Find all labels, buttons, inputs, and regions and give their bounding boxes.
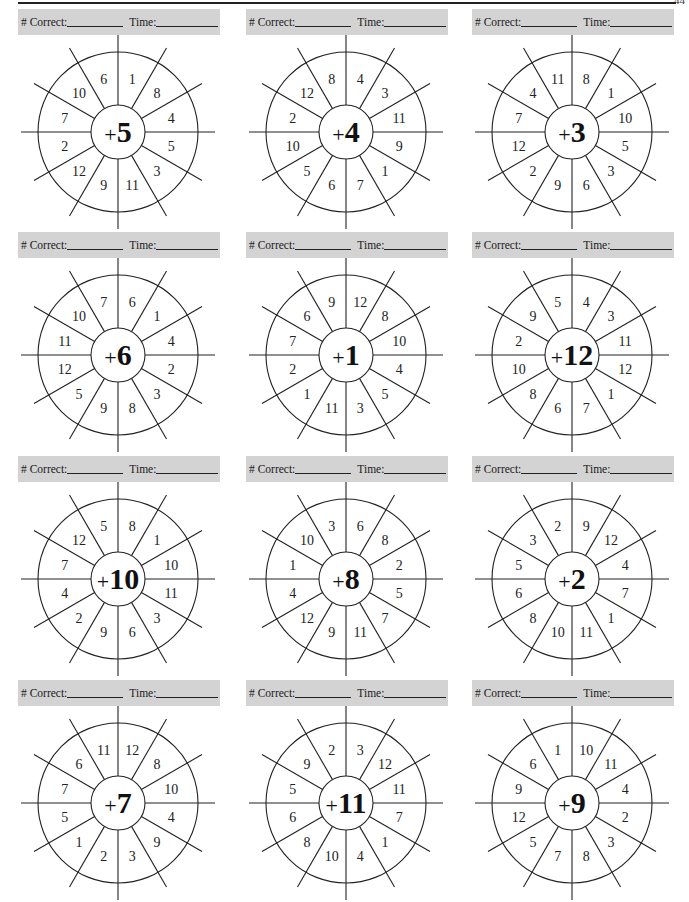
correct-blank[interactable] [67, 683, 123, 698]
segment-number: 2 [61, 139, 68, 154]
correct-blank[interactable] [521, 12, 577, 27]
segment-number: 2 [530, 164, 537, 179]
addition-wheel: 682571191241103+8 [246, 484, 446, 674]
correct-blank[interactable] [295, 235, 351, 250]
segment-number: 6 [530, 757, 537, 772]
segment-number: 4 [168, 334, 175, 349]
segment-number: 3 [381, 86, 388, 101]
segment-number: 4 [168, 111, 175, 126]
spoke-line [586, 155, 621, 216]
addend-number: 3 [571, 115, 586, 148]
segment-number: 6 [289, 810, 296, 825]
segment-number: 12 [300, 86, 314, 101]
time-blank[interactable] [384, 683, 446, 698]
time-blank[interactable] [384, 12, 446, 27]
wheel-card-4: # Correct:Time:614238951211107+6 [18, 232, 248, 454]
segment-number: 12 [58, 362, 72, 377]
segment-number: 8 [328, 72, 335, 87]
segment-number: 7 [289, 334, 296, 349]
time-label: Time: [583, 16, 610, 28]
segment-number: 1 [381, 835, 388, 850]
segment-number: 12 [72, 164, 86, 179]
spoke-line [586, 48, 621, 109]
segment-number: 3 [607, 835, 614, 850]
wheel-card-6: # Correct:Time:431112176810295+12 [472, 232, 689, 454]
correct-label: # Correct: [249, 239, 295, 251]
segment-number: 6 [304, 309, 311, 324]
spoke-line [360, 495, 395, 556]
segment-number: 2 [396, 558, 403, 573]
correct-blank[interactable] [521, 459, 577, 474]
time-blank[interactable] [610, 12, 672, 27]
segment-number: 2 [328, 743, 335, 758]
addend-number: 9 [571, 786, 586, 819]
segment-number: 10 [325, 849, 339, 864]
time-blank[interactable] [384, 459, 446, 474]
addition-wheel: 912471111086532+2 [472, 484, 672, 674]
time-blank[interactable] [156, 683, 218, 698]
time-label: Time: [583, 239, 610, 251]
segment-number: 6 [328, 178, 335, 193]
wheel-card-2: # Correct:Time:431191765102128+4 [246, 9, 476, 231]
segment-number: 10 [618, 111, 632, 126]
spoke-line [360, 155, 395, 216]
correct-blank[interactable] [295, 683, 351, 698]
time-blank[interactable] [610, 683, 672, 698]
spoke-line [360, 48, 395, 109]
segment-number: 8 [153, 757, 160, 772]
correct-blank[interactable] [67, 235, 123, 250]
wheel-card-12: # Correct:Time:101142387512961+9 [472, 680, 689, 902]
time-blank[interactable] [610, 235, 672, 250]
segment-number: 5 [554, 295, 561, 310]
segment-number: 9 [153, 835, 160, 850]
segment-number: 10 [579, 743, 593, 758]
segment-number: 12 [300, 611, 314, 626]
score-header: # Correct:Time: [246, 232, 448, 258]
segment-number: 7 [61, 558, 68, 573]
segment-number: 10 [164, 558, 178, 573]
wheel-card-7: # Correct:Time:811011369247125+10 [18, 456, 248, 678]
segment-number: 4 [622, 782, 629, 797]
segment-number: 3 [153, 611, 160, 626]
time-blank[interactable] [156, 459, 218, 474]
time-blank[interactable] [610, 459, 672, 474]
segment-number: 3 [328, 519, 335, 534]
addition-wheel: 811053692127411+3 [472, 37, 672, 227]
time-blank[interactable] [156, 235, 218, 250]
segment-number: 4 [583, 295, 590, 310]
time-blank[interactable] [156, 12, 218, 27]
segment-number: 1 [129, 72, 136, 87]
spoke-line [360, 378, 395, 439]
segment-number: 2 [289, 111, 296, 126]
wheel-card-10: # Correct:Time:128104932157611+7 [18, 680, 248, 902]
correct-blank[interactable] [67, 459, 123, 474]
segment-number: 10 [72, 309, 86, 324]
segment-number: 2 [100, 849, 107, 864]
correct-blank[interactable] [521, 683, 577, 698]
segment-number: 5 [530, 835, 537, 850]
correct-blank[interactable] [521, 235, 577, 250]
correct-blank[interactable] [295, 459, 351, 474]
correct-label: # Correct: [475, 16, 521, 28]
segment-number: 9 [396, 139, 403, 154]
addend-number: 11 [338, 786, 366, 819]
segment-number: 8 [304, 835, 311, 850]
time-label: Time: [357, 687, 384, 699]
segment-number: 3 [357, 743, 364, 758]
spoke-line [132, 378, 167, 439]
time-blank[interactable] [384, 235, 446, 250]
correct-blank[interactable] [295, 12, 351, 27]
segment-number: 12 [618, 362, 632, 377]
score-header: # Correct:Time: [18, 680, 220, 706]
correct-blank[interactable] [67, 12, 123, 27]
segment-number: 2 [289, 362, 296, 377]
score-header: # Correct:Time: [18, 232, 220, 258]
segment-number: 10 [286, 139, 300, 154]
wheel-card-9: # Correct:Time:912471111086532+2 [472, 456, 689, 678]
segment-number: 7 [357, 178, 364, 193]
segment-number: 1 [607, 86, 614, 101]
segment-number: 11 [58, 334, 71, 349]
segment-number: 6 [76, 757, 83, 772]
time-label: Time: [129, 16, 156, 28]
segment-number: 7 [622, 586, 629, 601]
